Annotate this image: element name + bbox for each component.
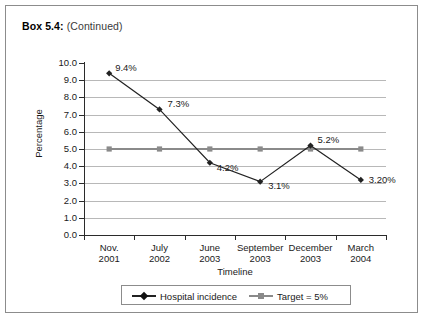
legend-swatch-diamond-icon	[132, 291, 156, 301]
data-point-label: 7.3%	[168, 98, 190, 109]
chart-legend: Hospital incidence Target = 5%	[121, 285, 351, 305]
legend-item-target: Target = 5%	[249, 289, 328, 303]
data-point-label: 3.1%	[268, 180, 290, 191]
data-point-marker-square	[107, 146, 112, 151]
series-layer	[6, 6, 425, 319]
data-point-label: 9.4%	[115, 62, 137, 73]
legend-swatch-square-icon	[249, 291, 273, 301]
page-root: Box 5.4: (Continued) 10.09.08.07.06.05.0…	[0, 0, 425, 319]
data-point-marker-square	[157, 146, 162, 151]
data-point-label: 4.2%	[217, 162, 239, 173]
box-frame: Box 5.4: (Continued) 10.09.08.07.06.05.0…	[5, 5, 418, 313]
data-point-marker-square	[358, 146, 363, 151]
legend-item-hospital-incidence: Hospital incidence	[132, 289, 237, 303]
data-point-marker-square	[258, 146, 263, 151]
line-chart: 10.09.08.07.06.05.04.03.02.01.00.0 Nov.2…	[6, 6, 425, 319]
data-point-label: 5.2%	[318, 134, 340, 145]
data-point-label: 3.20%	[369, 174, 396, 185]
data-point-marker-square	[207, 146, 212, 151]
legend-label-1: Target = 5%	[277, 291, 328, 302]
legend-label-0: Hospital incidence	[160, 291, 237, 302]
